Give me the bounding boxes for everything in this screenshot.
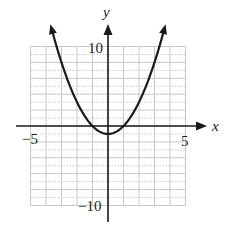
curve-arrow-right-icon [159, 24, 167, 35]
y-axis-arrow-icon [104, 24, 113, 35]
y-max-tick-label: 10 [88, 40, 103, 56]
x-min-tick-label: −5 [22, 131, 38, 147]
x-axis-label: x [211, 118, 219, 134]
y-min-tick-label: −10 [78, 198, 101, 214]
x-axis-arrow-icon [196, 122, 207, 131]
parabola-graph: y x −5 5 10 −10 [0, 0, 229, 227]
curve-arrow-left-icon [49, 24, 57, 35]
x-max-tick-label: 5 [181, 133, 189, 149]
y-axis-label: y [101, 4, 110, 20]
x-axis [16, 122, 207, 131]
y-axis [104, 24, 113, 222]
